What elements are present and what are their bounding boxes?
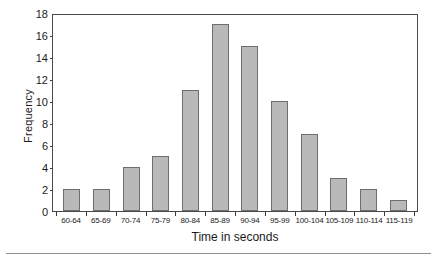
- bar[interactable]: [182, 90, 199, 211]
- bar-slot: [324, 15, 354, 211]
- y-axis-tick-label: 10: [18, 97, 48, 107]
- x-axis-tick-label: 90-94: [235, 216, 265, 225]
- bar[interactable]: [123, 167, 140, 211]
- x-axis-tick-label: 95-99: [265, 216, 295, 225]
- x-axis-tick-label: 60-64: [56, 216, 86, 225]
- x-axis-tick-label: 70-74: [116, 216, 146, 225]
- x-axis-tick-label: 115-119: [384, 216, 414, 225]
- bar-slot: [265, 15, 295, 211]
- x-axis-tick-label: 105-109: [324, 216, 354, 225]
- x-axis-tick-label: 110-114: [354, 216, 384, 225]
- x-axis-tick-label: 85-89: [205, 216, 235, 225]
- bar[interactable]: [212, 24, 229, 211]
- bar[interactable]: [360, 189, 377, 211]
- bar[interactable]: [93, 189, 110, 211]
- y-axis-tick-label: 18: [18, 9, 48, 19]
- x-axis-tick-label: 100-104: [295, 216, 325, 225]
- bottom-divider: [6, 253, 431, 254]
- y-axis-tick-label: 0: [18, 207, 48, 217]
- plot-area: [52, 14, 418, 212]
- bar[interactable]: [301, 134, 318, 211]
- x-axis-tick-labels: 60-6465-6970-7475-7980-8485-8990-9495-99…: [52, 216, 418, 225]
- bar-slot: [383, 15, 413, 211]
- bar[interactable]: [63, 189, 80, 211]
- x-axis-title: Time in seconds: [52, 230, 418, 244]
- bar[interactable]: [271, 101, 288, 211]
- x-axis-tick-label: 65-69: [86, 216, 116, 225]
- y-axis-tick-label: 4: [18, 163, 48, 173]
- y-axis-tick-label: 8: [18, 119, 48, 129]
- bar[interactable]: [390, 200, 407, 211]
- bar[interactable]: [241, 46, 258, 211]
- bar-slot: [116, 15, 146, 211]
- y-axis-tick-label: 14: [18, 53, 48, 63]
- y-axis-tick-label: 6: [18, 141, 48, 151]
- bar-slot: [354, 15, 384, 211]
- bar-slot: [87, 15, 117, 211]
- bar-slot: [294, 15, 324, 211]
- y-axis-tick-label: 2: [18, 185, 48, 195]
- bar-slot: [146, 15, 176, 211]
- bar[interactable]: [330, 178, 347, 211]
- y-axis-tick-label: 16: [18, 31, 48, 41]
- bar[interactable]: [152, 156, 169, 211]
- x-axis-tick-label: 75-79: [145, 216, 175, 225]
- x-axis-tick-label: 80-84: [175, 216, 205, 225]
- bar-series: [53, 15, 417, 211]
- bar-slot: [57, 15, 87, 211]
- histogram-figure: Frequency 024681012141618 60-6465-6970-7…: [0, 0, 437, 266]
- bar-slot: [176, 15, 206, 211]
- bar-slot: [205, 15, 235, 211]
- bar-slot: [235, 15, 265, 211]
- y-axis-tick-labels: 024681012141618: [18, 14, 48, 212]
- y-axis-tick-label: 12: [18, 75, 48, 85]
